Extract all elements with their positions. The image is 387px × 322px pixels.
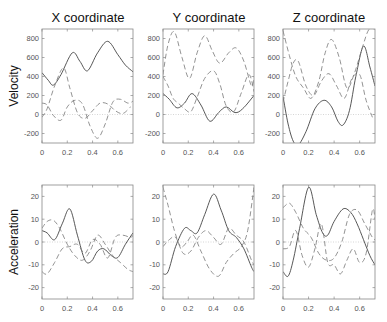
y-tick-label: 20	[31, 192, 39, 201]
x-tick-label: 0.2	[62, 304, 72, 313]
y-tick-label: 600	[147, 53, 160, 62]
line-dashed-2	[163, 228, 254, 265]
line-dashed-1	[163, 31, 254, 86]
row-label-acceleration: Acceleration	[7, 209, 21, 275]
series-group	[283, 187, 375, 276]
y-tick-label: 600	[26, 53, 39, 62]
x-tick-label: 0	[281, 304, 285, 313]
y-tick-label: 600	[267, 53, 280, 62]
y-tick-label: 20	[152, 192, 160, 201]
y-tick-label: -200	[24, 129, 39, 138]
y-tick-label: 200	[147, 91, 160, 100]
axes-frame	[42, 29, 133, 143]
y-tick-label: 10	[31, 215, 39, 224]
y-tick-label: 400	[267, 72, 280, 81]
x-tick-label: 0	[40, 148, 44, 157]
x-tick-label: 0.6	[234, 304, 244, 313]
line-dashed-1	[42, 220, 133, 272]
figure: X coordinate Y coordinate Z coordinate V…	[0, 0, 387, 322]
y-tick-label: 10	[152, 215, 160, 224]
line-solid	[163, 94, 254, 122]
panel-acceleration-x: -20-100102000.20.40.6	[28, 185, 133, 313]
y-tick-label: -20	[28, 283, 39, 292]
x-tick-label: 0.4	[329, 304, 339, 313]
x-tick-label: 0.2	[183, 148, 193, 157]
x-tick-label: 0.2	[303, 148, 313, 157]
line-dashed-2	[283, 59, 372, 117]
x-tick-label: 0.2	[303, 304, 313, 313]
panel-title: Y coordinate	[173, 10, 246, 25]
y-tick-label: -10	[149, 260, 160, 269]
line-dashed-1	[283, 28, 375, 98]
x-tick-label: 0.6	[354, 148, 364, 157]
axes-frame	[163, 29, 254, 143]
y-tick-label: 800	[267, 34, 280, 43]
x-tick-label: 0.4	[87, 304, 97, 313]
y-tick-label: 20	[272, 192, 280, 201]
x-tick-label: 0.4	[87, 148, 97, 157]
y-tick-label: 800	[147, 34, 160, 43]
x-tick-label: 0.6	[234, 148, 244, 157]
x-tick-label: 0.4	[208, 304, 218, 313]
line-dashed-2	[163, 71, 254, 113]
x-tick-label: 0.6	[113, 304, 123, 313]
panel-velocity-z: -200020040060080000.20.40.6	[265, 28, 375, 157]
x-tick-label: 0	[161, 304, 165, 313]
panels: -200020040060080000.20.40.6-200020040060…	[24, 28, 375, 313]
series-group	[163, 31, 254, 121]
line-solid	[163, 194, 254, 274]
x-tick-label: 0	[161, 148, 165, 157]
y-tick-label: 200	[26, 91, 39, 100]
y-tick-label: 0	[35, 238, 39, 247]
panel-acceleration-y: -20-100102000.20.40.6	[149, 185, 254, 313]
x-tick-label: 0.6	[354, 304, 364, 313]
y-tick-label: 0	[276, 238, 280, 247]
y-tick-label: 0	[156, 238, 160, 247]
y-tick-label: -20	[269, 283, 280, 292]
series-group	[163, 187, 254, 276]
y-tick-label: 400	[147, 72, 160, 81]
column-title-x: X coordinate	[52, 10, 125, 25]
x-tick-label: 0	[281, 148, 285, 157]
panel-velocity-x: -200020040060080000.20.40.6	[24, 29, 133, 157]
panel-velocity-y: -200020040060080000.20.40.6	[145, 29, 254, 157]
x-tick-label: 0.2	[62, 148, 72, 157]
y-tick-label: -200	[145, 129, 160, 138]
y-tick-label: 0	[276, 110, 280, 119]
column-title-y: Y coordinate	[173, 10, 246, 25]
panel-title: Z coordinate	[293, 10, 365, 25]
column-title-z: Z coordinate	[293, 10, 365, 25]
line-solid	[283, 46, 375, 145]
series-group	[42, 209, 133, 275]
y-tick-label: -20	[149, 283, 160, 292]
panel-acceleration-z: -20-100102000.20.40.6	[269, 185, 375, 313]
y-tick-label: 0	[35, 110, 39, 119]
line-solid	[42, 41, 133, 85]
y-tick-label: 800	[26, 34, 39, 43]
y-tick-label: -10	[269, 260, 280, 269]
series-group	[283, 28, 375, 145]
x-tick-label: 0.2	[183, 304, 193, 313]
x-tick-label: 0	[40, 304, 44, 313]
y-tick-label: 200	[267, 91, 280, 100]
y-tick-label: -200	[265, 129, 280, 138]
x-tick-label: 0.6	[113, 148, 123, 157]
line-dashed-2	[42, 99, 133, 138]
y-tick-label: -10	[28, 260, 39, 269]
x-tick-label: 0.4	[329, 148, 339, 157]
series-group	[42, 41, 133, 138]
y-tick-label: 0	[156, 110, 160, 119]
y-tick-label: 10	[272, 215, 280, 224]
line-dashed-1	[42, 68, 131, 118]
axes-frame	[283, 29, 375, 143]
row-label-velocity: Velocity	[7, 65, 21, 106]
y-tick-label: 400	[26, 72, 39, 81]
x-tick-label: 0.4	[208, 148, 218, 157]
panel-title: X coordinate	[52, 10, 125, 25]
